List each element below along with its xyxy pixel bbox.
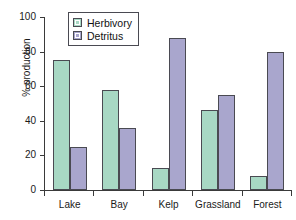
y-axis-tick-label: 60 bbox=[12, 81, 36, 91]
y-axis-tick-label: 40 bbox=[12, 116, 36, 126]
bar-detritus-kelp bbox=[169, 38, 186, 190]
x-axis-tick-mark bbox=[143, 191, 144, 196]
x-axis-line bbox=[44, 190, 292, 191]
y-axis-tick-mark bbox=[40, 17, 44, 18]
x-axis-tick-mark bbox=[242, 191, 243, 196]
y-axis-tick-mark bbox=[40, 86, 44, 87]
x-axis-label-lake: Lake bbox=[59, 199, 81, 210]
x-axis-label-forest: Forest bbox=[253, 199, 281, 210]
bar-group bbox=[201, 17, 235, 190]
y-axis-tick-label: 80 bbox=[12, 47, 36, 57]
y-axis-tick-mark bbox=[40, 155, 44, 156]
y-axis-tick-label: 20 bbox=[12, 150, 36, 160]
chart-legend: Herbivory Detritus bbox=[68, 12, 139, 46]
bar-herbivory-grassland bbox=[201, 110, 218, 190]
bar-group bbox=[152, 17, 186, 190]
bar-chart: % production 020406080100 Herbivory Detr… bbox=[0, 0, 296, 220]
legend-swatch-icon-herbivory bbox=[73, 18, 82, 27]
bar-herbivory-forest bbox=[250, 176, 267, 190]
legend-label-herbivory: Herbivory bbox=[87, 17, 132, 29]
bar-detritus-grassland bbox=[218, 95, 235, 190]
y-axis-tick-label: 0 bbox=[12, 185, 36, 195]
y-axis-tick-mark bbox=[40, 121, 44, 122]
y-axis-tick-labels: 020406080100 bbox=[10, 0, 36, 220]
x-axis-label-bay: Bay bbox=[110, 199, 127, 210]
x-axis-tick-mark bbox=[93, 191, 94, 196]
bar-detritus-forest bbox=[267, 52, 284, 190]
y-axis-tick-label: 100 bbox=[12, 12, 36, 22]
legend-swatch-icon-detritus bbox=[73, 31, 82, 40]
y-axis-tick-mark bbox=[40, 52, 44, 53]
x-axis-label-grassland: Grassland bbox=[195, 199, 241, 210]
x-axis-tick-mark bbox=[192, 191, 193, 196]
bar-herbivory-kelp bbox=[152, 168, 169, 190]
legend-item-herbivory: Herbivory bbox=[73, 16, 132, 29]
bar-herbivory-bay bbox=[102, 90, 119, 190]
bar-detritus-bay bbox=[119, 128, 136, 190]
x-axis-tick-mark bbox=[291, 191, 292, 196]
legend-item-detritus: Detritus bbox=[73, 29, 132, 42]
bar-herbivory-lake bbox=[53, 60, 70, 190]
bar-group bbox=[250, 17, 284, 190]
bar-detritus-lake bbox=[70, 147, 87, 190]
legend-label-detritus: Detritus bbox=[87, 30, 123, 42]
x-axis-tick-mark bbox=[44, 191, 45, 196]
x-axis-label-kelp: Kelp bbox=[158, 199, 178, 210]
